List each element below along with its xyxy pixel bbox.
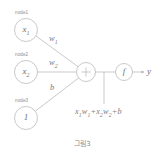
output-arrowhead <box>141 71 144 74</box>
edge-label-w1-sub: 1 <box>55 39 58 45</box>
edge-label-w2-sub: 2 <box>55 63 58 69</box>
formula-expression: x1w1+x2w2+b <box>75 107 122 118</box>
node-tag-node2: node2 <box>15 52 28 57</box>
edge-node3-to-sum <box>36 78 79 111</box>
edge-label-b: b <box>50 82 54 94</box>
node-tag-node1: node1 <box>15 10 28 15</box>
activation-node-symbol: f <box>118 66 130 76</box>
edge-label-b-base: b <box>50 82 54 92</box>
node-value-node2-sub: 2 <box>27 72 30 78</box>
node-value-node1: x1 <box>16 24 36 36</box>
neural-neuron-figure: node1 node2 node3 x1 x2 1 w1 w2 b f y x1… <box>0 0 165 160</box>
node-value-node2: x2 <box>16 66 36 78</box>
formula-term-b: b <box>118 107 122 116</box>
figure-caption: 그림3 <box>0 138 165 148</box>
node-value-node3: 1 <box>16 112 36 124</box>
output-label-y: y <box>147 66 151 76</box>
node-value-node1-sub: 1 <box>27 30 30 36</box>
node-value-node3-base: 1 <box>24 112 29 122</box>
node-tag-node3: node3 <box>15 98 28 103</box>
edge-label-w2: w2 <box>49 57 58 69</box>
edge-label-w1: w1 <box>49 33 58 45</box>
